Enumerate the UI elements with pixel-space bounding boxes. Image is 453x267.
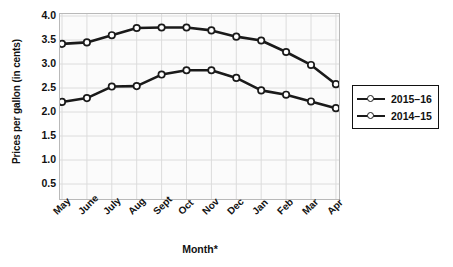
chart-legend: 2015–162014–15 <box>352 85 439 129</box>
data-point <box>183 24 189 30</box>
data-point <box>233 75 239 81</box>
y-tick-label: 0.5 <box>30 178 56 188</box>
series-lower <box>60 67 339 111</box>
y-axis-title: Prices per gallon (in cents) <box>11 22 22 182</box>
y-tick-label: 3.5 <box>30 34 56 44</box>
x-tick-label: Oct <box>176 197 196 217</box>
legend-item[interactable]: 2014–15 <box>357 107 432 124</box>
data-point <box>208 67 214 73</box>
data-point <box>258 37 264 43</box>
data-point <box>258 87 264 93</box>
data-point <box>333 81 339 87</box>
data-point <box>308 98 314 104</box>
y-tick-label: 1.0 <box>30 154 56 164</box>
data-point <box>134 25 140 31</box>
y-tick-label: 3.0 <box>30 58 56 68</box>
legend-label: 2015–16 <box>391 93 432 105</box>
data-point <box>233 33 239 39</box>
data-point <box>84 95 90 101</box>
plot-svg <box>60 14 339 199</box>
data-point <box>158 24 164 30</box>
series-upper <box>60 24 339 87</box>
legend-label: 2014–15 <box>391 110 432 122</box>
data-point <box>60 99 65 105</box>
legend-marker-icon <box>357 110 385 122</box>
data-point <box>60 41 65 47</box>
line-chart: Prices per gallon (in cents) 4.03.53.02.… <box>0 0 453 267</box>
y-tick-label: 2.5 <box>30 82 56 92</box>
data-point <box>283 49 289 55</box>
data-point <box>333 105 339 111</box>
data-point <box>84 39 90 45</box>
y-tick-label: 2.0 <box>30 106 56 116</box>
data-point <box>109 32 115 38</box>
data-point <box>109 83 115 89</box>
data-point <box>308 62 314 68</box>
grid-lines <box>60 14 339 199</box>
plot-area <box>59 13 340 200</box>
data-point <box>134 83 140 89</box>
data-point <box>158 71 164 77</box>
y-tick-label: 4.0 <box>30 10 56 20</box>
x-axis-title: Month* <box>0 243 400 255</box>
legend-marker-icon <box>357 93 385 105</box>
data-point <box>283 92 289 98</box>
data-point <box>183 67 189 73</box>
y-tick-label: 1.5 <box>30 130 56 140</box>
legend-item[interactable]: 2015–16 <box>357 90 432 107</box>
data-point <box>208 27 214 33</box>
